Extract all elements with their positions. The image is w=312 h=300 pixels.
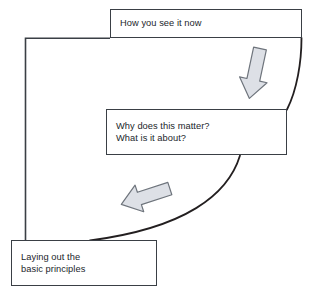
curve-middle-to-bottom [90, 156, 240, 241]
node-how-you-see-it-now[interactable]: How you see it now [110, 9, 302, 38]
node-bottom-label: Laying out the basic principles [12, 251, 156, 275]
node-why-does-this-matter[interactable]: Why does this matter? What is it about? [106, 109, 287, 155]
curve-top-to-middle [287, 38, 302, 110]
node-laying-out-basic-principles[interactable]: Laying out the basic principles [11, 240, 157, 286]
node-middle-label: Why does this matter? What is it about? [107, 120, 286, 144]
arrow-down-left-icon [117, 175, 174, 217]
arrow-down-right-icon [236, 46, 274, 102]
node-top-label: How you see it now [111, 17, 301, 29]
diagram-canvas: How you see it now Why does this matter?… [0, 0, 312, 300]
